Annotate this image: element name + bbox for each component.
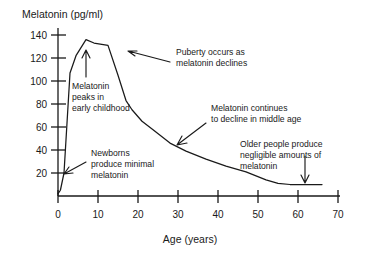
newborns-annotation-line-1: Newborns <box>91 148 130 158</box>
y-tick-label-40: 40 <box>36 145 48 156</box>
melatonin-vs-age-chart: Melatonin (pg/ml) 140 120 100 80 60 40 2… <box>0 0 369 258</box>
x-tick-label-0: 0 <box>55 209 61 220</box>
x-tick-label-30: 30 <box>172 209 184 220</box>
newborns-arrow-icon <box>64 162 86 174</box>
x-tick-label-50: 50 <box>252 209 264 220</box>
puberty-arrow-icon <box>128 51 170 62</box>
newborns-annotation-line-3: melatonin <box>91 170 128 180</box>
x-tick-label-20: 20 <box>132 209 144 220</box>
x-tick-label-40: 40 <box>212 209 224 220</box>
annotation-newborns: Newborns produce minimal melatonin <box>64 148 154 180</box>
middle-age-annotation-line-1: Melatonin continues <box>211 103 287 113</box>
middle-age-annotation-line-2: to decline in middle age <box>211 114 302 124</box>
y-axis-tick-labels: 140 120 100 80 60 40 20 <box>30 30 47 179</box>
peak-annotation-line-2: peaks in <box>72 92 104 102</box>
annotation-older-people: Older people produce negligible amounts … <box>240 139 323 183</box>
annotation-puberty: Puberty occurs as melatonin declines <box>128 47 247 68</box>
x-tick-label-60: 60 <box>292 209 304 220</box>
peak-annotation-line-1: Melatonin <box>72 81 109 91</box>
annotation-peak: Melatonin peaks in early childhood <box>72 50 130 113</box>
peak-arrow-icon <box>82 50 90 77</box>
y-tick-label-20: 20 <box>36 168 48 179</box>
older-people-arrow-icon <box>301 156 309 183</box>
y-tick-label-100: 100 <box>30 76 47 87</box>
older-people-annotation-line-1: Older people produce <box>240 139 323 149</box>
y-tick-label-80: 80 <box>36 99 48 110</box>
x-tick-label-10: 10 <box>92 209 104 220</box>
peak-annotation-line-3: early childhood <box>72 103 130 113</box>
x-tick-label-70: 70 <box>332 209 344 220</box>
x-axis-tick-labels: 0 10 20 30 40 50 60 70 <box>55 209 344 220</box>
y-axis-title: Melatonin (pg/ml) <box>22 8 103 20</box>
x-axis-title: Age (years) <box>163 233 217 245</box>
newborns-annotation-line-2: produce minimal <box>91 159 154 169</box>
puberty-annotation-line-1: Puberty occurs as <box>176 47 245 57</box>
y-tick-label-60: 60 <box>36 122 48 133</box>
y-tick-label-140: 140 <box>30 30 47 41</box>
chart-canvas: Melatonin (pg/ml) 140 120 100 80 60 40 2… <box>0 0 369 258</box>
y-tick-label-120: 120 <box>30 53 47 64</box>
older-people-annotation-line-2: negligible amounts of <box>240 150 322 160</box>
middle-age-arrow-icon <box>177 123 206 145</box>
puberty-annotation-line-2: melatonin declines <box>176 58 247 68</box>
older-people-annotation-line-3: melatonin <box>240 161 277 171</box>
